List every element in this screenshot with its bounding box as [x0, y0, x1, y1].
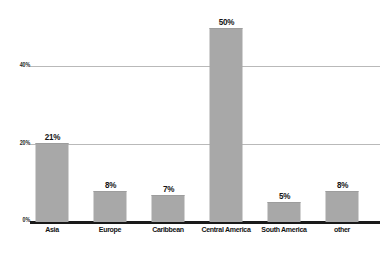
bar-value-central-america: 50% — [218, 17, 233, 27]
category-label-other: other — [308, 226, 377, 234]
bar-value-europe: 8% — [105, 180, 116, 190]
bar-rect-central-america[interactable] — [210, 28, 243, 222]
bar-caribbean[interactable]: 7% — [152, 195, 185, 222]
bar-south-america[interactable]: 5% — [268, 202, 301, 222]
bar-rect-asia[interactable] — [36, 143, 69, 222]
bar-value-other: 8% — [337, 180, 348, 190]
bar-chart: 40% 20% 0% 21% 8% 7% 50% — [0, 0, 391, 255]
bar-value-south-america: 5% — [279, 191, 290, 201]
bar-slot-other[interactable]: 8% — [313, 32, 371, 222]
bar-slot-caribbean[interactable]: 7% — [139, 32, 197, 222]
bar-rect-south-america[interactable] — [268, 202, 301, 222]
bar-central-america[interactable]: 50% — [210, 28, 243, 222]
bar-value-caribbean: 7% — [163, 184, 174, 194]
bar-europe[interactable]: 8% — [94, 191, 127, 222]
bar-slot-europe[interactable]: 8% — [81, 32, 139, 222]
bar-rect-europe[interactable] — [94, 191, 127, 222]
bar-rect-other[interactable] — [326, 191, 359, 222]
bar-other[interactable]: 8% — [326, 191, 359, 222]
plot-area: 40% 20% 0% 21% 8% 7% 50% — [0, 0, 391, 255]
bar-rect-caribbean[interactable] — [152, 195, 185, 222]
bar-slot-central-america[interactable]: 50% — [197, 32, 255, 222]
bar-asia[interactable]: 21% — [36, 143, 69, 222]
bar-slot-south-america[interactable]: 5% — [255, 32, 313, 222]
bar-value-asia: 21% — [44, 132, 59, 142]
bar-slot-asia[interactable]: 21% — [23, 32, 81, 222]
